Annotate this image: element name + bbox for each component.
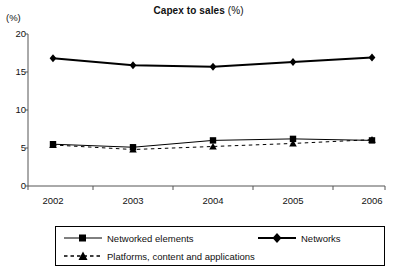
data-series-group — [49, 54, 376, 153]
legend-item-networks: Networks — [256, 230, 341, 246]
series-networks — [50, 54, 376, 71]
capex-to-sales-chart: Capex to sales (%) (%) 20 15 10 5 0 2002… — [0, 0, 397, 275]
legend-item-platforms-content-applications: Platforms, content and applications — [62, 248, 255, 264]
legend-key-platforms-content-applications — [62, 249, 104, 263]
legend-key-networked-elements — [62, 231, 104, 245]
legend-item-networked-elements: Networked elements — [62, 230, 194, 246]
legend-key-networks — [256, 231, 298, 245]
chart-legend: Networked elements Networks Platforms, c… — [55, 226, 385, 266]
legend-label-platforms-content-applications: Platforms, content and applications — [104, 251, 255, 262]
x-axis-ticks — [28, 186, 385, 190]
legend-label-networked-elements: Networked elements — [104, 233, 194, 244]
legend-label-networks: Networks — [298, 233, 341, 244]
axes — [25, 34, 385, 190]
